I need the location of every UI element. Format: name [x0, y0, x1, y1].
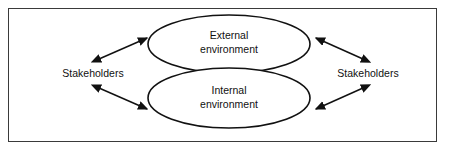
label-external-environment-line1: External: [210, 29, 249, 41]
arrow-left-lower: [99, 88, 147, 109]
label-internal-environment-line2: environment: [200, 98, 258, 110]
label-stakeholders-left: Stakeholders: [62, 67, 123, 79]
label-stakeholders-right: Stakeholders: [337, 67, 398, 79]
arrow-left-upper: [99, 38, 147, 59]
diagram-canvas: External environment Internal environmen…: [0, 0, 458, 151]
arrow-right-lower: [316, 88, 363, 109]
arrow-right-upper: [316, 38, 363, 59]
label-external-environment-line2: environment: [200, 43, 258, 55]
label-internal-environment-line1: Internal: [211, 84, 246, 96]
figure-root: External environment Internal environmen…: [0, 0, 458, 151]
